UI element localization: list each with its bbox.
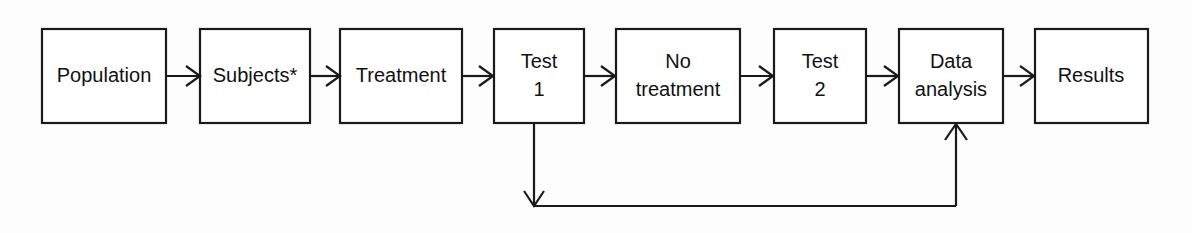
node-test-1-label-line-1: Test xyxy=(521,50,558,72)
node-test-1: Test 1 xyxy=(494,29,584,123)
edge-test-1-feedback-down xyxy=(524,123,544,206)
node-no-treatment: No treatment xyxy=(616,29,740,123)
node-treatment: Treatment xyxy=(340,29,462,123)
node-test-2-label-line-1: Test xyxy=(802,50,839,72)
edge-data-analysis-to-results xyxy=(1003,66,1034,86)
edge-population-to-subjects xyxy=(166,66,200,86)
node-data-analysis-label-line-2: analysis xyxy=(915,78,987,100)
edge-test-2-to-data-analysis xyxy=(866,66,898,86)
node-test-2-box xyxy=(774,29,866,123)
node-test-1-box xyxy=(494,29,584,123)
flowchart-diagram: Population Subjects* Treatment Test 1 No… xyxy=(0,0,1192,233)
edge-no-treatment-to-test-2 xyxy=(740,66,773,86)
node-data-analysis: Data analysis xyxy=(899,29,1003,123)
edge-test-1-to-no-treatment xyxy=(584,66,615,86)
node-results: Results xyxy=(1035,29,1148,123)
node-no-treatment-box xyxy=(616,29,740,123)
node-test-1-label-line-2: 1 xyxy=(533,78,544,100)
edge-subjects-to-treatment xyxy=(310,66,340,86)
node-results-label: Results xyxy=(1058,64,1125,86)
flowchart-canvas: Population Subjects* Treatment Test 1 No… xyxy=(0,0,1192,233)
node-data-analysis-box xyxy=(899,29,1003,123)
node-treatment-label: Treatment xyxy=(356,64,447,86)
node-population-label: Population xyxy=(57,64,152,86)
node-no-treatment-label-line-1: No xyxy=(665,50,691,72)
edge-feedback-to-data-analysis xyxy=(945,124,967,206)
node-no-treatment-label-line-2: treatment xyxy=(636,78,721,100)
edge-treatment-to-test-1 xyxy=(462,66,493,86)
node-test-2: Test 2 xyxy=(774,29,866,123)
node-population: Population xyxy=(42,29,166,123)
node-subjects: Subjects* xyxy=(200,29,310,123)
node-subjects-label: Subjects* xyxy=(213,64,298,86)
node-test-2-label-line-2: 2 xyxy=(814,78,825,100)
node-data-analysis-label-line-1: Data xyxy=(930,50,973,72)
